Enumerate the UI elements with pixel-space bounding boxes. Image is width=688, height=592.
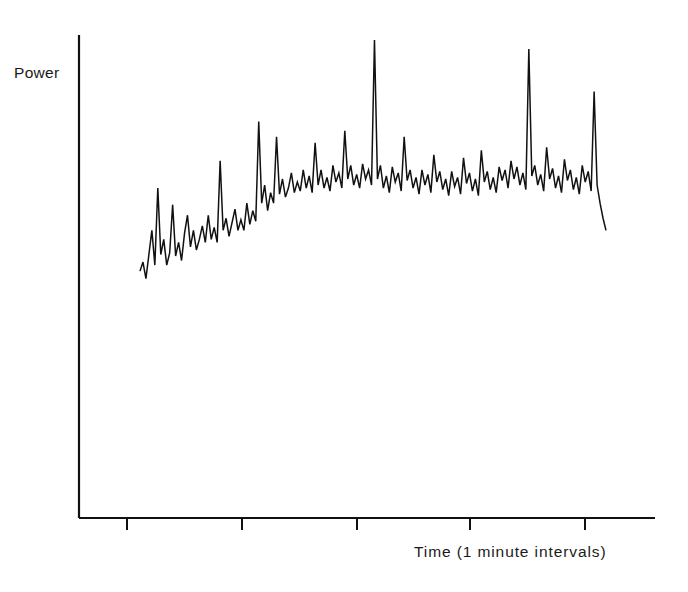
x-axis-label: Time (1 minute intervals) <box>414 544 606 560</box>
y-axis-label: Power <box>14 65 59 81</box>
power-data-trace <box>140 40 606 279</box>
x-axis-ticks <box>127 518 585 530</box>
power-time-series-chart <box>0 0 688 592</box>
figure-canvas: Power Time (1 minute intervals) <box>0 0 688 592</box>
axes <box>79 35 655 530</box>
